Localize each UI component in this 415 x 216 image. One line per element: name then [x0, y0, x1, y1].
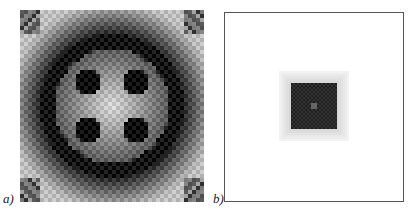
panel-a-label: a) — [3, 191, 14, 207]
panel-b-label: b) — [213, 191, 224, 207]
pattern-image-b — [225, 13, 403, 201]
panel-b-frame — [224, 12, 404, 202]
panel-a-pattern — [20, 10, 204, 202]
pattern-image-a — [20, 10, 204, 202]
